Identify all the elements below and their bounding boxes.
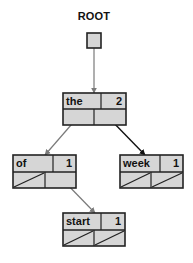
node-count: 2 [116, 95, 122, 107]
node-word: start [66, 215, 90, 227]
node-count: 1 [115, 215, 121, 227]
tree-node-week: week1 [120, 155, 183, 188]
node-count: 1 [173, 157, 179, 169]
node-count: 1 [66, 157, 72, 169]
binary-tree-diagram: the2of1week1start1 [0, 0, 193, 263]
node-word: of [16, 157, 27, 169]
tree-node-of: of1 [13, 155, 76, 188]
node-word: the [66, 95, 83, 107]
node-word: week [122, 157, 151, 169]
tree-node-start: start1 [63, 213, 125, 246]
tree-node-the: the2 [63, 93, 126, 125]
root-pointer-cell [87, 33, 101, 48]
tree-nodes: the2of1week1start1 [13, 93, 183, 246]
root-pointer-box [87, 33, 101, 48]
